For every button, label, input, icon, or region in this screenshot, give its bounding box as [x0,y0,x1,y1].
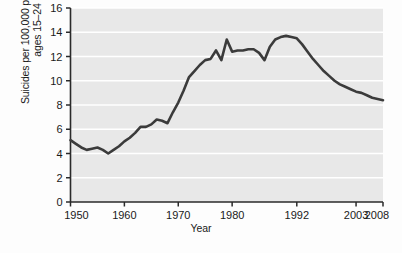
x-tick-label: 1980 [220,209,244,221]
x-tick-label: 1960 [112,209,136,221]
y-tick-label: 14 [50,26,62,38]
plot-area: 0246810121416 19501960197019801992200320… [50,2,389,221]
x-tick-label: 1992 [285,209,309,221]
x-tick-label: 1970 [166,209,190,221]
y-tick-label: 6 [56,123,62,135]
x-axis-label: Year [0,222,402,234]
y-tick-label: 16 [50,2,62,14]
y-tick-label: 2 [56,172,62,184]
x-tick-label: 1950 [64,209,88,221]
y-tick-label: 8 [56,99,62,111]
x-tick-label: 2008 [365,209,389,221]
line-chart: 0246810121416 19501960197019801992200320… [0,0,402,253]
x-axis-ticks: 1950196019701980199220032008 [64,202,389,221]
y-tick-label: 0 [56,196,62,208]
y-axis-ticks: 0246810121416 [50,2,70,208]
y-tick-label: 12 [50,51,62,63]
figure-container: Suicides per 100,000 population, ages 15… [0,0,402,253]
y-tick-label: 4 [56,148,62,160]
y-tick-label: 10 [50,75,62,87]
